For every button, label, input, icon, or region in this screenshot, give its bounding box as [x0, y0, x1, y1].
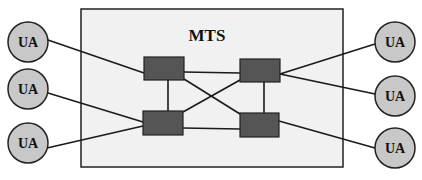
- link-mta-bottom-left-to-mta-bottom-right: [183, 128, 240, 129]
- link-mta-top-left-to-mta-top-right: [184, 72, 240, 73]
- mta-top-left-node: [144, 57, 184, 80]
- ua-right-2: UA: [375, 76, 415, 116]
- mts-diagram: MTS UAUAUAUAUAUA: [0, 0, 422, 180]
- mts-title: MTS: [189, 26, 226, 45]
- ua-label: UA: [385, 141, 406, 156]
- mta-bottom-left-node: [143, 111, 183, 135]
- ua-label: UA: [18, 136, 39, 151]
- ua-label: UA: [385, 89, 406, 104]
- mta-bottom-right-node: [240, 113, 279, 137]
- ua-label: UA: [18, 82, 39, 97]
- ua-left-2: UA: [8, 69, 48, 109]
- ua-label: UA: [385, 35, 406, 50]
- ua-left-1: UA: [8, 22, 48, 62]
- ua-right-1: UA: [375, 22, 415, 62]
- ua-label: UA: [18, 35, 39, 50]
- ua-right-3: UA: [375, 128, 415, 168]
- ua-left-3: UA: [8, 123, 48, 163]
- mta-top-right-node: [240, 59, 280, 82]
